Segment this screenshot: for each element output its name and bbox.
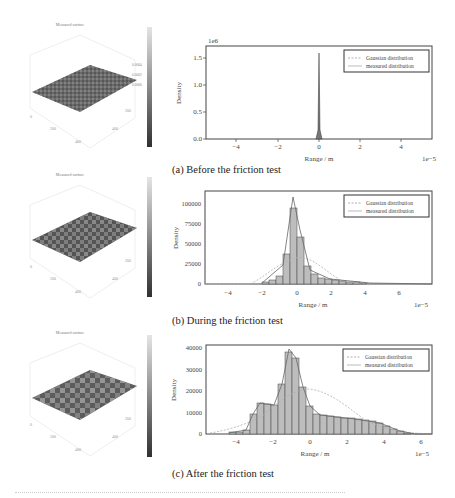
- svg-text:0.5: 0.5: [193, 108, 202, 116]
- svg-text:100000: 100000: [182, 200, 202, 207]
- histogram-chart-b: 0250005000075000100000 Density −4−20246 …: [170, 185, 455, 310]
- svg-text:30000: 30000: [186, 366, 202, 373]
- svg-text:1e−5: 1e−5: [414, 301, 429, 309]
- svg-text:2: 2: [358, 143, 362, 151]
- svg-text:0.0: 0.0: [193, 135, 202, 143]
- svg-text:Range / m: Range / m: [299, 301, 328, 309]
- svg-text:6: 6: [397, 289, 401, 297]
- svg-text:−2: −2: [269, 438, 277, 446]
- svg-text:200: 200: [125, 258, 131, 263]
- svg-text:0: 0: [295, 289, 299, 297]
- histogram-chart-c: 010000200003000040000 Density −4−20246 R…: [170, 340, 455, 465]
- svg-text:200: 200: [50, 126, 56, 131]
- svg-text:25000: 25000: [185, 260, 201, 267]
- svg-text:400: 400: [75, 289, 81, 294]
- svg-text:Range / m: Range / m: [301, 450, 330, 458]
- svg-text:−2: −2: [274, 143, 282, 151]
- legend-gaussian-a: Gaussian distribution: [366, 55, 413, 61]
- legend-measured-c: measured distribution: [365, 362, 413, 368]
- svg-text:0: 0: [30, 264, 32, 269]
- surface-title-a: Measured surface: [20, 22, 120, 27]
- svg-text:400: 400: [112, 276, 118, 281]
- svg-text:0: 0: [317, 143, 321, 151]
- svg-text:−4: −4: [224, 289, 232, 297]
- svg-text:0: 0: [30, 422, 32, 427]
- colorbar-b: [147, 177, 152, 297]
- surface-plot-b: 0200400400200: [20, 180, 150, 300]
- svg-text:Density: Density: [170, 379, 178, 401]
- svg-text:0.0000: 0.0000: [132, 83, 142, 87]
- svg-text:0: 0: [30, 114, 32, 119]
- svg-text:0: 0: [308, 438, 312, 446]
- svg-text:20000: 20000: [186, 387, 202, 394]
- svg-text:400: 400: [112, 434, 118, 439]
- svg-text:1.0: 1.0: [193, 81, 202, 89]
- svg-text:2: 2: [329, 289, 333, 297]
- svg-text:4: 4: [399, 143, 403, 151]
- legend-gaussian-c: Gaussian distribution: [365, 354, 412, 360]
- svg-text:400: 400: [75, 447, 81, 452]
- svg-text:−4: −4: [232, 438, 240, 446]
- svg-text:4: 4: [382, 438, 386, 446]
- svg-text:400: 400: [112, 126, 118, 131]
- surface-title-b: Measured surface: [20, 172, 120, 177]
- svg-text:4: 4: [363, 289, 367, 297]
- svg-text:10000: 10000: [186, 409, 202, 416]
- surface-plot-c: 0200400400200: [20, 338, 150, 458]
- cut-off-figure-caption: [15, 492, 345, 496]
- svg-text:1e6: 1e6: [208, 37, 219, 45]
- svg-text:2: 2: [345, 438, 349, 446]
- histogram-chart-a: 1e6 0.00.51.01.5 Density −4−2024 Range /…: [170, 30, 455, 165]
- svg-text:0.0004: 0.0004: [132, 63, 142, 67]
- caption-b: (b) During the friction test: [172, 315, 283, 326]
- legend-gaussian-b: Gaussian distribution: [366, 200, 413, 206]
- svg-text:50000: 50000: [185, 240, 201, 247]
- surface-title-c: Measured surface: [20, 330, 120, 335]
- svg-text:1e−5: 1e−5: [422, 155, 437, 163]
- caption-a: (a) Before the friction test: [172, 164, 281, 175]
- legend-measured-a: measured distribution: [366, 63, 414, 69]
- svg-text:0: 0: [198, 280, 201, 287]
- svg-text:−2: −2: [258, 289, 266, 297]
- svg-text:200: 200: [125, 416, 131, 421]
- svg-text:Density: Density: [175, 82, 183, 104]
- svg-text:200: 200: [125, 108, 131, 113]
- colorbar-a: [147, 27, 152, 147]
- legend-measured-b: measured distribution: [366, 208, 414, 214]
- svg-text:−4: −4: [232, 143, 240, 151]
- svg-text:75000: 75000: [185, 220, 201, 227]
- caption-c: (c) After the friction test: [172, 468, 274, 479]
- svg-text:200: 200: [50, 434, 56, 439]
- svg-text:Range / m: Range / m: [305, 155, 334, 163]
- svg-text:0.0002: 0.0002: [132, 73, 142, 77]
- svg-text:1e−5: 1e−5: [415, 450, 430, 458]
- svg-text:1.5: 1.5: [193, 54, 202, 62]
- svg-text:400: 400: [75, 139, 81, 144]
- svg-text:Density: Density: [172, 227, 180, 249]
- svg-text:0: 0: [199, 430, 202, 437]
- svg-text:6: 6: [419, 438, 423, 446]
- svg-text:40000: 40000: [186, 344, 202, 351]
- colorbar-c: [147, 335, 152, 457]
- surface-plot-a: 0200400400200 0.00040.00020.0000: [20, 30, 150, 150]
- svg-text:200: 200: [50, 276, 56, 281]
